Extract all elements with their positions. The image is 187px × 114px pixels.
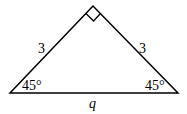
right-leg-label: 3 [139,41,146,56]
right-angle-label: 45° [145,78,165,93]
hypotenuse-label: q [89,96,96,111]
triangle-diagram: 3 3 45° 45° q [0,0,187,114]
right-angle-marker [86,14,101,22]
left-leg-label: 3 [38,41,45,56]
left-angle-label: 45° [22,78,42,93]
